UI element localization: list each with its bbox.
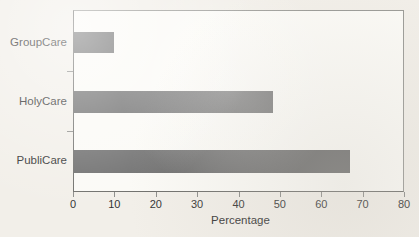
- xtick-label-80: 80: [398, 198, 410, 210]
- ytick-mark-1: [67, 71, 73, 72]
- xtick-mark-10: [114, 192, 115, 197]
- ytick-label-holycare-text: HolyCare: [19, 95, 67, 107]
- xtick-label-10: 10: [108, 198, 120, 210]
- xtick-mark-40: [239, 192, 240, 197]
- xtick-mark-0: [73, 192, 74, 197]
- xaxis-title: Percentage: [0, 214, 419, 226]
- xtick-mark-30: [197, 192, 198, 197]
- xtick-label-40: 40: [232, 198, 244, 210]
- plot-area: [73, 10, 404, 192]
- xtick-mark-80: [404, 192, 405, 197]
- bar-holycare: [74, 91, 273, 113]
- ytick-label-groupcare-text: GroupCare: [10, 36, 67, 48]
- bar-publicare: [74, 150, 350, 173]
- xtick-label-30: 30: [191, 198, 203, 210]
- xtick-label-50: 50: [274, 198, 286, 210]
- xtick-mark-70: [363, 192, 364, 197]
- xtick-mark-50: [280, 192, 281, 197]
- xtick-label-60: 60: [315, 198, 327, 210]
- xtick-label-70: 70: [357, 198, 369, 210]
- ytick-label-publicare: PubliCare: [0, 154, 67, 166]
- xtick-label-20: 20: [150, 198, 162, 210]
- xtick-mark-20: [156, 192, 157, 197]
- xaxis-title-text: Percentage: [211, 214, 270, 226]
- xtick-mark-60: [321, 192, 322, 197]
- ytick-mark-2: [67, 131, 73, 132]
- bar-chart-figure: GroupCare HolyCare PubliCare 01020304050…: [0, 0, 419, 237]
- ytick-label-holycare: HolyCare: [0, 95, 67, 107]
- ytick-label-publicare-text: PubliCare: [17, 154, 68, 166]
- ytick-label-groupcare: GroupCare: [0, 36, 67, 48]
- bar-groupcare: [74, 32, 114, 53]
- xtick-label-0: 0: [70, 198, 76, 210]
